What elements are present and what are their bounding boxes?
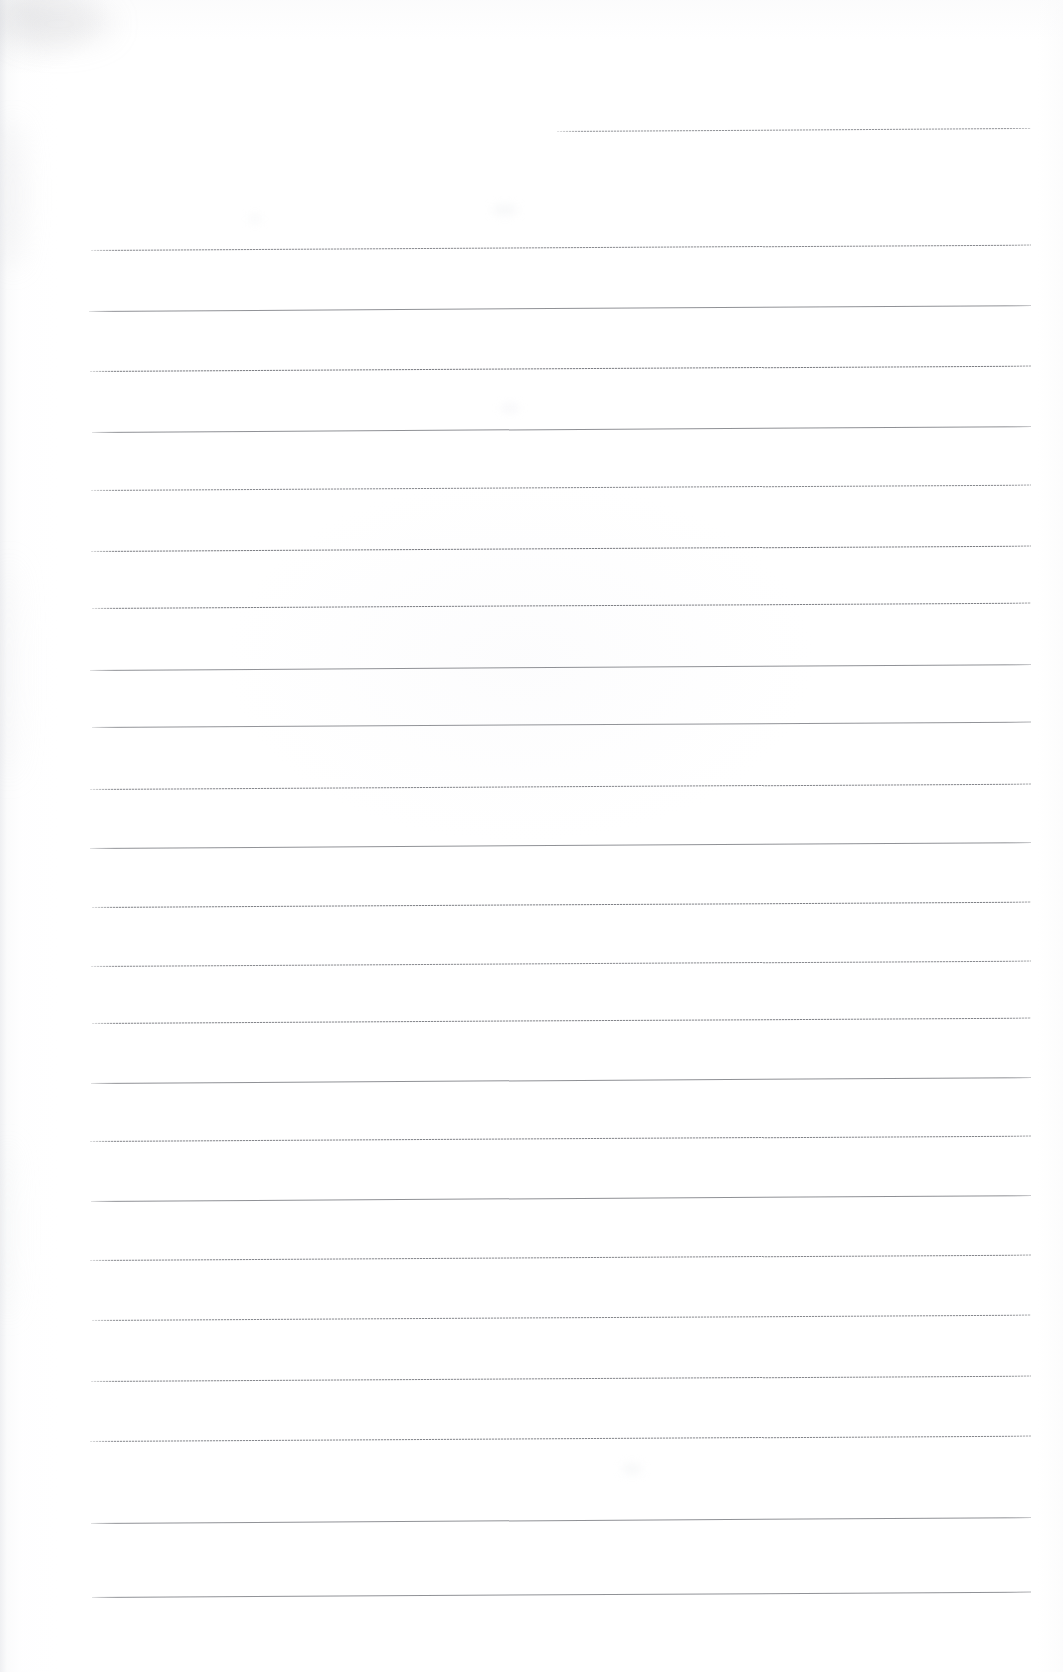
paper-surface — [0, 0, 1063, 1672]
scanned-page — [0, 0, 1063, 1672]
